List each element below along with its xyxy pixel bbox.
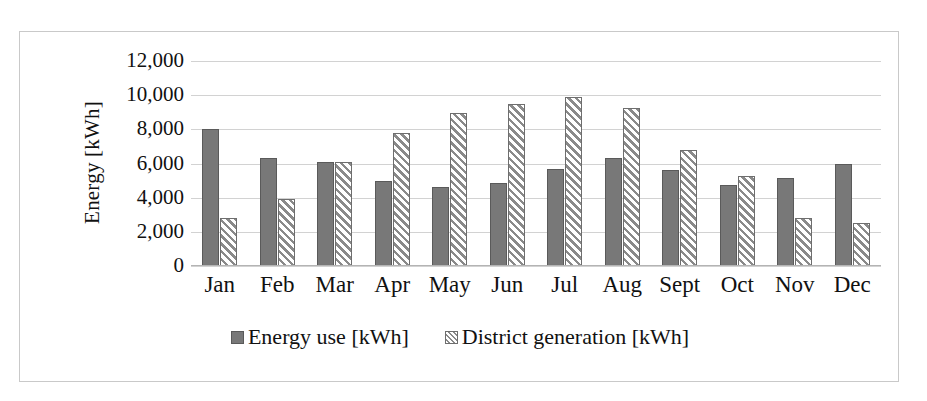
x-axis-tick-label: Dec: [824, 272, 882, 298]
bar-energy-use: [202, 129, 219, 266]
bar-district-generation: [565, 97, 582, 266]
bar-group: [490, 61, 525, 266]
bar-energy-use: [720, 185, 737, 266]
legend-swatch-solid-icon: [231, 331, 244, 344]
gridline: [191, 266, 881, 267]
y-axis-tick-label: 0: [74, 255, 184, 276]
x-axis-tick-label: Feb: [249, 272, 307, 298]
bar-group: [547, 61, 582, 266]
plot-area: [191, 61, 881, 266]
y-axis-tick-label: 10,000: [74, 84, 184, 105]
bar-energy-use: [662, 170, 679, 266]
x-axis-tick-label: May: [421, 272, 479, 298]
x-axis-tick-label: Mar: [306, 272, 364, 298]
bar-group: [260, 61, 295, 266]
bar-group: [835, 61, 870, 266]
x-axis-tick-label: Aug: [594, 272, 652, 298]
bar-district-generation: [220, 218, 237, 266]
legend-label: Energy use [kWh]: [248, 326, 409, 348]
bar-district-generation: [680, 150, 697, 266]
chart-figure: Energy [kWh] 12,00010,0008,0006,0004,000…: [0, 0, 927, 401]
legend-swatch-hatched-icon: [445, 331, 458, 344]
bar-district-generation: [278, 199, 295, 266]
y-axis-tick-label: 12,000: [74, 50, 184, 71]
x-axis-tick-label: Nov: [766, 272, 824, 298]
bar-energy-use: [547, 169, 564, 266]
y-axis-tick-label: 2,000: [74, 221, 184, 242]
legend-label: District generation [kWh]: [462, 326, 689, 348]
y-axis-tick-labels: 12,00010,0008,0006,0004,0002,0000: [56, 61, 184, 266]
x-axis-line: [191, 265, 881, 266]
y-axis-tick-label: 4,000: [74, 187, 184, 208]
x-axis-tick-label: Jul: [536, 272, 594, 298]
bar-district-generation: [335, 162, 352, 266]
chart-frame: Energy [kWh] 12,00010,0008,0006,0004,000…: [19, 31, 899, 382]
x-axis-tick-label: Sept: [651, 272, 709, 298]
legend-item: District generation [kWh]: [445, 326, 689, 348]
bar-energy-use: [605, 158, 622, 266]
bar-group: [662, 61, 697, 266]
bar-district-generation: [738, 176, 755, 266]
bar-group: [720, 61, 755, 266]
bar-energy-use: [490, 183, 507, 266]
bar-district-generation: [450, 113, 467, 266]
bar-energy-use: [835, 164, 852, 266]
bar-group: [777, 61, 812, 266]
bar-group: [317, 61, 352, 266]
bar-district-generation: [853, 223, 870, 266]
x-axis-tick-label: Apr: [364, 272, 422, 298]
bar-energy-use: [432, 187, 449, 266]
bar-district-generation: [623, 108, 640, 266]
x-axis-tick-label: Jun: [479, 272, 537, 298]
x-axis-tick-labels: JanFebMarAprMayJunJulAugSeptOctNovDec: [191, 272, 881, 306]
bar-energy-use: [375, 181, 392, 266]
chart-legend: Energy use [kWh]District generation [kWh…: [20, 326, 900, 348]
y-axis-tick-label: 6,000: [74, 153, 184, 174]
bar-group: [605, 61, 640, 266]
y-axis-tick-label: 8,000: [74, 118, 184, 139]
x-axis-tick-label: Oct: [709, 272, 767, 298]
x-axis-tick-label: Jan: [191, 272, 249, 298]
legend-item: Energy use [kWh]: [231, 326, 409, 348]
bar-energy-use: [260, 158, 277, 266]
bar-energy-use: [317, 162, 334, 266]
bar-energy-use: [777, 178, 794, 266]
bar-district-generation: [508, 104, 525, 266]
bar-district-generation: [393, 133, 410, 266]
bar-group: [375, 61, 410, 266]
bar-district-generation: [795, 218, 812, 266]
bar-group: [432, 61, 467, 266]
bar-group: [202, 61, 237, 266]
